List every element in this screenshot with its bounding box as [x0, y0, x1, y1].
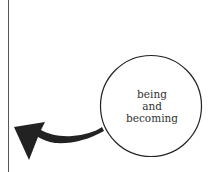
circle-label: being and becoming — [102, 88, 202, 124]
curved-arrow-icon — [14, 122, 104, 160]
label-line-and: and — [102, 100, 202, 112]
diagram-shapes — [0, 0, 211, 172]
label-line-becoming: becoming — [102, 112, 202, 124]
diagram-canvas: being and becoming — [0, 0, 211, 172]
label-line-being: being — [102, 88, 202, 100]
